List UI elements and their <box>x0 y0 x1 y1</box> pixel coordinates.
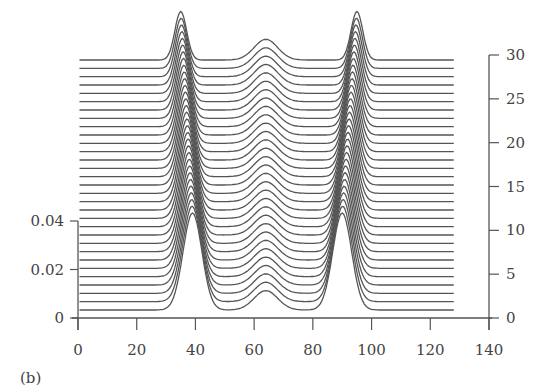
x-tick-label: 140 <box>475 341 504 359</box>
trace-group <box>80 12 454 313</box>
y-tick-label: 0.02 <box>31 261 64 279</box>
x-tick-label: 0 <box>73 341 83 359</box>
x-tick-label: 120 <box>416 341 445 359</box>
waterfall-chart: 020406080100120140 00.020.04 05101520253… <box>0 0 546 392</box>
x-tick-label: 40 <box>186 341 205 359</box>
z-axis-right: 051015202530 <box>489 46 525 330</box>
y-tick-label: 0 <box>54 309 64 327</box>
x-tick-label: 100 <box>357 341 386 359</box>
panel-label: (b) <box>20 369 41 387</box>
z-tick-label: 0 <box>506 309 516 327</box>
x-axis: 020406080100120140 <box>72 318 503 359</box>
x-tick-label: 60 <box>245 341 264 359</box>
y-tick-label: 0.04 <box>31 212 64 230</box>
x-tick-label: 80 <box>303 341 322 359</box>
x-tick-label: 20 <box>127 341 146 359</box>
z-tick-label: 20 <box>506 134 525 152</box>
z-tick-label: 5 <box>506 265 516 283</box>
z-tick-label: 10 <box>506 221 525 239</box>
z-tick-label: 15 <box>506 178 525 196</box>
y-axis-left: 00.020.04 <box>31 212 78 330</box>
z-tick-label: 25 <box>506 90 525 108</box>
z-tick-label: 30 <box>506 46 525 64</box>
